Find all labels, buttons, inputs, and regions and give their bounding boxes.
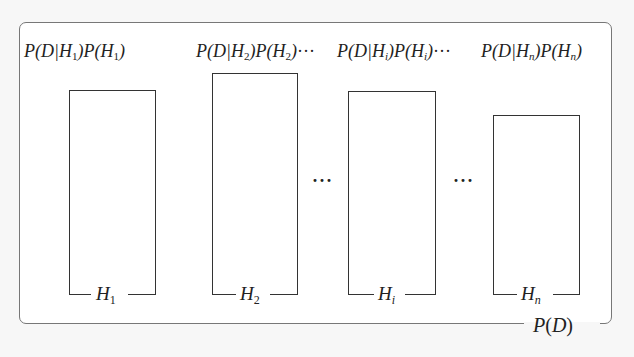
top-label-h2: P(D|H2)P(H2)··· [196, 42, 315, 62]
label-arg: D [552, 314, 566, 336]
subscript: n [529, 50, 535, 62]
subscript: 1 [72, 50, 78, 62]
top-label-h1: P(D|H1)P(H1) [24, 42, 125, 62]
subscript: 2 [254, 293, 260, 307]
box-base-line [128, 294, 156, 295]
label-base: H [96, 283, 110, 304]
hypothesis-label-hn: Hn [521, 284, 541, 306]
label-base: H [378, 283, 392, 304]
subscript: 1 [110, 293, 116, 307]
subscript: i [385, 50, 388, 62]
label-base: H [240, 283, 254, 304]
top-label-hn: P(D|Hn)P(Hn) [481, 42, 582, 62]
box-base-line [405, 294, 436, 295]
hypothesis-box-hn [493, 115, 580, 295]
box-base-line [553, 294, 580, 295]
ellipsis-between-h2-hi: ··· [312, 172, 333, 190]
subscript: 1 [113, 50, 119, 62]
subscript: n [535, 293, 541, 307]
top-label-hi: P(D|Hi)P(Hi)··· [337, 42, 451, 62]
subscript: 2 [244, 50, 250, 62]
subscript: n [570, 50, 576, 62]
subscript: i [424, 50, 427, 62]
hypothesis-label-h1: H1 [96, 284, 116, 306]
hypothesis-box-h1 [69, 90, 156, 295]
subscript: 2 [285, 50, 291, 62]
ellipsis-between-hi-hn: ··· [453, 172, 474, 190]
label-base: H [521, 283, 535, 304]
hypothesis-box-h2 [212, 73, 298, 295]
box-base-line [270, 294, 298, 295]
subscript: i [392, 293, 395, 307]
ellipsis: ··· [433, 41, 451, 61]
box-base-line [69, 294, 91, 295]
box-base-line [348, 294, 374, 295]
hypothesis-box-hi [348, 91, 436, 295]
hypothesis-label-hi: Hi [378, 284, 395, 306]
hypothesis-label-h2: H2 [240, 284, 260, 306]
ellipsis: ··· [297, 41, 315, 61]
label-fn: P [533, 314, 545, 336]
container-label-p-d: P(D) [529, 315, 577, 335]
box-base-line [212, 294, 236, 295]
box-base-line [493, 294, 517, 295]
